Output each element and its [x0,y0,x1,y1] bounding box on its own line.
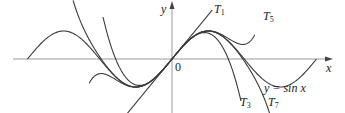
y-axis-label: y [161,3,166,15]
t5-label: T5 [263,10,274,24]
plot-area [0,0,345,113]
t7-label: T7 [268,96,279,110]
y-axis-arrow-icon [170,1,175,9]
sin-label: y = sin x [264,82,306,94]
t1-label: T1 [214,3,225,17]
x-axis-label: x [326,62,331,74]
t1-curve [124,10,213,113]
origin-label: 0 [175,61,181,73]
t3-label: T3 [240,96,251,110]
taylor-polynomials-figure: y x 0 T1 T5 T3 T7 y = sin x [0,0,345,113]
